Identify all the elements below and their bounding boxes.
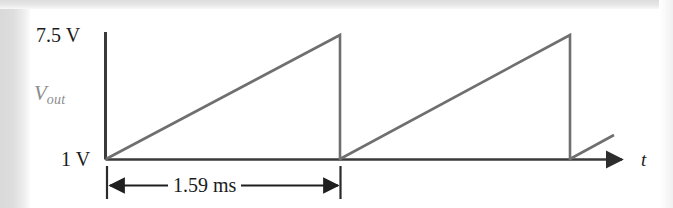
y-axis-title: Vout	[34, 83, 65, 107]
sawtooth-waveform-figure: 7.5 V 1 V Vout t 1.59 ms	[0, 0, 673, 208]
y-axis-max-label: 7.5 V	[36, 25, 80, 45]
sawtooth-trace	[106, 35, 614, 159]
x-axis-label: t	[641, 150, 646, 169]
y-axis-title-subscript: out	[47, 92, 66, 107]
period-annotation-label: 1.59 ms	[168, 175, 241, 195]
y-axis-title-symbol: V	[34, 81, 47, 105]
waveform-plot	[0, 0, 673, 208]
y-axis-min-label: 1 V	[61, 149, 90, 169]
